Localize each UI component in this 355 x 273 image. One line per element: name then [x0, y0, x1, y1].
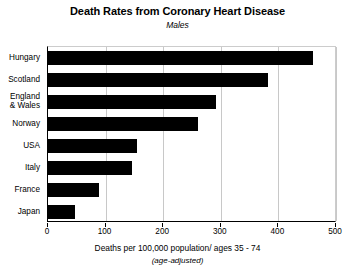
bar-france — [48, 183, 99, 197]
gridline-500 — [336, 47, 337, 221]
y-axis-label: Japan — [18, 200, 40, 222]
chart-title: Death Rates from Coronary Heart Disease — [0, 5, 355, 17]
x-tick-label-300: 300 — [213, 227, 227, 236]
bar-england-wales — [48, 95, 216, 109]
bar-row — [48, 179, 99, 201]
y-axis-label: Scotland — [8, 68, 40, 90]
x-tick-label-400: 400 — [271, 227, 285, 236]
bar-japan — [48, 205, 75, 219]
bar-row — [48, 69, 268, 91]
bar-row — [48, 157, 132, 179]
bar-hungary — [48, 51, 313, 65]
bar-usa — [48, 139, 137, 153]
y-axis-label: Italy — [25, 156, 40, 178]
x-tick-label-100: 100 — [98, 227, 112, 236]
bar-scotland — [48, 73, 268, 87]
y-axis-label: England& Wales — [10, 90, 40, 112]
bar-row — [48, 47, 313, 69]
bar-italy — [48, 161, 132, 175]
plot-area — [47, 46, 336, 222]
bar-norway — [48, 117, 198, 131]
x-axis-note: (age-adjusted) — [0, 256, 355, 265]
chart-container: Death Rates from Coronary Heart Disease … — [0, 0, 355, 273]
bar-row — [48, 91, 216, 113]
y-axis-label: Hungary — [9, 46, 40, 68]
bar-row — [48, 201, 75, 223]
x-tick-label-0: 0 — [45, 227, 50, 236]
bar-series — [48, 47, 335, 221]
bar-row — [48, 135, 137, 157]
x-axis-title: Deaths per 100,000 population/ ages 35 -… — [0, 243, 355, 253]
y-axis-label: Norway — [12, 112, 40, 134]
x-tick-label-200: 200 — [155, 227, 169, 236]
y-axis-label: USA — [23, 134, 40, 156]
y-axis-label: France — [15, 178, 40, 200]
x-tick-label-500: 500 — [328, 227, 342, 236]
y-axis-category-labels: HungaryScotlandEngland& WalesNorwayUSAIt… — [0, 46, 44, 222]
x-axis-ticks: 0100200300400500 — [0, 223, 355, 235]
chart-subtitle: Males — [0, 20, 355, 30]
bar-row — [48, 113, 198, 135]
